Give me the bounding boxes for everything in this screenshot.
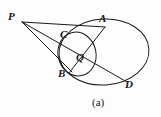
geometry-figure: P A C Q B D (a) bbox=[0, 0, 161, 117]
point-label-P: P bbox=[8, 11, 15, 22]
segment-PCQD bbox=[22, 22, 127, 82]
figure-caption: (a) bbox=[92, 97, 104, 108]
point-label-Q: Q bbox=[76, 52, 84, 63]
point-label-A: A bbox=[99, 13, 106, 24]
point-label-C: C bbox=[60, 29, 67, 40]
point-label-B: B bbox=[58, 68, 65, 79]
point-label-D: D bbox=[125, 79, 133, 90]
segment-PA bbox=[22, 22, 105, 27]
